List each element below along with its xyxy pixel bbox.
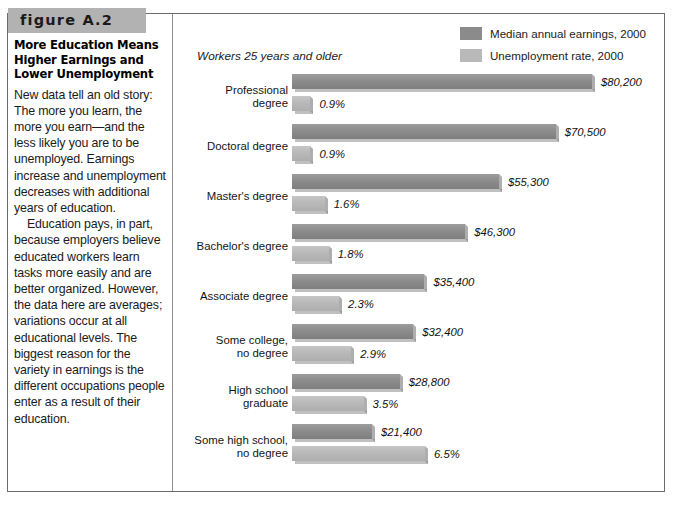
chart-bar-pair: $28,8003.5% [292,372,660,422]
bar-unemployment[interactable] [292,446,425,461]
figure-root: figure A.2 More Education Means Higher E… [0,0,680,508]
chart-bar-pair: $70,5000.9% [292,122,660,172]
chart-category-label-line: Some college, [216,334,288,346]
bar-value-unemployment: 0.9% [319,98,345,110]
chart-category-label: Doctoral degree [180,140,288,153]
caption-paragraph-2: Education pays, in part, because employe… [14,216,166,427]
bar-value-earnings: $55,300 [508,176,549,188]
caption-paragraph-1: New data tell an old story: The more you… [14,87,166,217]
bar-value-unemployment: 1.8% [338,248,364,260]
bar-unemployment[interactable] [292,96,310,111]
chart-category-label: Professionaldegree [180,84,288,111]
chart-bar-pair: $35,4002.3% [292,272,660,322]
bar-value-unemployment: 0.9% [319,148,345,160]
chart-subtitle: Workers 25 years and older [197,49,342,63]
chart-category-label-line: Associate degree [200,290,288,302]
chart-category-group: Master's degree$55,3001.6% [180,172,660,222]
chart-category-group: Some college,no degree$32,4002.9% [180,322,660,372]
bar-row-earnings[interactable]: $55,300 [292,174,549,189]
chart-category-label: Associate degree [180,290,288,303]
chart-category-label-line: Professional [225,84,288,96]
chart-bar-pair: $55,3001.6% [292,172,660,222]
bar-row-unemployment[interactable]: 2.9% [292,346,386,361]
bar-row-earnings[interactable]: $35,400 [292,274,474,289]
chart-category-group: High schoolgraduate$28,8003.5% [180,372,660,422]
figure-title: More Education Means Higher Earnings and… [14,38,166,82]
chart-bar-pair: $80,2000.9% [292,72,660,122]
chart-category-group: Professionaldegree$80,2000.9% [180,72,660,122]
bar-earnings[interactable] [292,424,372,439]
chart-legend: Median annual earnings, 2000 Unemploymen… [460,24,646,68]
figure-number-label: figure A.2 [20,12,113,28]
bar-row-unemployment[interactable]: 0.9% [292,146,345,161]
bar-value-earnings: $32,400 [422,326,463,338]
chart-category-group: Some high school,no degree$21,4006.5% [180,422,660,472]
bar-value-earnings: $80,200 [601,76,642,88]
chart-category-label-line: Some high school, [194,434,288,446]
legend-label-earnings: Median annual earnings, 2000 [490,27,646,40]
chart-category-label-line: Bachelor's degree [197,240,288,252]
bar-row-earnings[interactable]: $28,800 [292,374,450,389]
bar-unemployment[interactable] [292,196,325,211]
legend-label-unemployment: Unemployment rate, 2000 [490,49,623,62]
bar-unemployment[interactable] [292,296,339,311]
bar-row-earnings[interactable]: $46,300 [292,224,515,239]
chart-category-label: Some college,no degree [180,334,288,361]
column-divider [172,14,173,491]
chart-bar-pair: $21,4006.5% [292,422,660,472]
chart-bar-pair: $46,3001.8% [292,222,660,272]
bar-row-earnings[interactable]: $70,500 [292,124,606,139]
legend-item-unemployment: Unemployment rate, 2000 [460,46,646,65]
bar-value-unemployment: 2.9% [360,348,386,360]
bar-value-earnings: $70,500 [565,126,606,138]
bar-value-earnings: $28,800 [409,376,450,388]
bar-value-unemployment: 6.5% [434,448,460,460]
chart-category-label-line: High school [228,384,288,396]
caption-body: New data tell an old story: The more you… [14,87,166,427]
bar-earnings[interactable] [292,224,465,239]
bar-earnings[interactable] [292,74,592,89]
bar-value-earnings: $21,400 [381,426,422,438]
bar-row-earnings[interactable]: $32,400 [292,324,463,339]
chart-category-label-line: graduate [243,397,288,409]
bar-row-unemployment[interactable]: 0.9% [292,96,345,111]
bar-earnings[interactable] [292,174,499,189]
chart-category-label-line: degree [253,97,288,109]
chart-category-label-line: no degree [237,347,288,359]
bar-unemployment[interactable] [292,146,310,161]
bar-earnings[interactable] [292,274,424,289]
bar-unemployment[interactable] [292,346,351,361]
bar-value-unemployment: 3.5% [373,398,399,410]
chart-category-label: Bachelor's degree [180,240,288,253]
bar-row-unemployment[interactable]: 3.5% [292,396,398,411]
legend-swatch-unemployment-icon [460,49,482,62]
chart-category-group: Associate degree$35,4002.3% [180,272,660,322]
caption-column: More Education Means Higher Earnings and… [14,38,166,427]
chart-category-label-line: no degree [237,447,288,459]
bar-value-unemployment: 2.3% [348,298,374,310]
chart-category-group: Bachelor's degree$46,3001.8% [180,222,660,272]
chart-bar-pair: $32,4002.9% [292,322,660,372]
chart-category-label: Master's degree [180,190,288,203]
bar-earnings[interactable] [292,374,400,389]
bar-row-unemployment[interactable]: 2.3% [292,296,374,311]
bar-value-earnings: $46,300 [474,226,515,238]
bar-row-earnings[interactable]: $80,200 [292,74,642,89]
bar-earnings[interactable] [292,124,556,139]
bar-unemployment[interactable] [292,246,329,261]
legend-swatch-earnings-icon [460,27,482,40]
legend-item-earnings: Median annual earnings, 2000 [460,24,646,43]
bar-row-earnings[interactable]: $21,400 [292,424,422,439]
chart-plot-area: Professionaldegree$80,2000.9%Doctoral de… [180,72,660,472]
bar-value-unemployment: 1.6% [334,198,360,210]
chart-category-label: Some high school,no degree [180,434,288,461]
chart-category-label-line: Master's degree [207,190,288,202]
bar-row-unemployment[interactable]: 1.6% [292,196,359,211]
bar-unemployment[interactable] [292,396,364,411]
bar-earnings[interactable] [292,324,413,339]
chart-category-group: Doctoral degree$70,5000.9% [180,122,660,172]
bar-value-earnings: $35,400 [433,276,474,288]
chart-category-label-line: Doctoral degree [207,140,288,152]
bar-row-unemployment[interactable]: 6.5% [292,446,460,461]
bar-row-unemployment[interactable]: 1.8% [292,246,364,261]
